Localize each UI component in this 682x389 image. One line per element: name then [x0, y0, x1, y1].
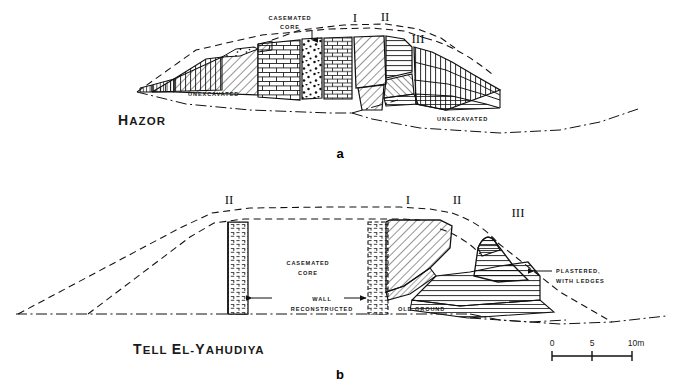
label-casemated-core-line1: CASEMATED	[286, 260, 329, 266]
phase-label-II: II	[381, 9, 390, 24]
phase-label-I: I	[406, 192, 410, 207]
panel-a-letter: a	[336, 146, 344, 161]
label-wall: WALL	[312, 296, 331, 302]
panel-b-letter: b	[336, 367, 344, 382]
tey-wall-reconstructed	[368, 222, 388, 314]
hazor-layer-brick-east	[324, 37, 352, 99]
panel-a-title: HAZOR	[118, 112, 166, 128]
archaeological-section-figure: UNEXCAVATED	[0, 0, 682, 389]
phase-label-III: III	[512, 205, 525, 220]
scale-label-0: 0	[550, 338, 555, 348]
label-casemated-core-line1: CASEMATED	[268, 15, 311, 21]
panel-b-title: TELL EL-YAHUDIYA	[133, 341, 265, 357]
label-unexcavated-right: UNEXCAVATED	[437, 116, 488, 122]
phase-label-I: I	[353, 10, 357, 25]
hazor-layer-casemated-core	[302, 38, 322, 99]
tey-wall-west	[228, 222, 248, 314]
label-plastered-line1: PLASTERED,	[556, 268, 600, 274]
label-plastered-line2: WITH LEDGES	[556, 278, 605, 284]
phase-label-II-east: II	[453, 192, 462, 207]
label-unexcavated-left: UNEXCAVATED	[188, 91, 239, 97]
label-casemated-core-line2: CORE	[280, 24, 300, 30]
label-old-ground: OLD GROUND	[398, 306, 445, 312]
phase-label-II-west: II	[225, 192, 234, 207]
hazor-layer-brick-west	[258, 40, 300, 100]
scale-label-10m: 10m	[628, 338, 645, 348]
phase-label-III: III	[412, 31, 425, 46]
label-casemated-core-line2: CORE	[298, 270, 318, 276]
scale-label-5: 5	[590, 338, 595, 348]
label-wall-reconstructed: RECONSTRUCTED	[291, 306, 353, 312]
